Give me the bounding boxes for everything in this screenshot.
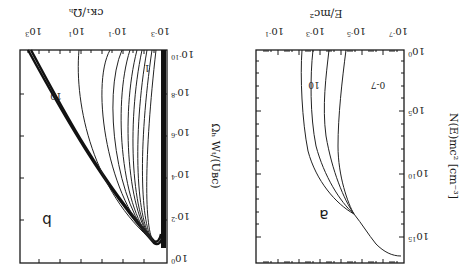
svg-text:10-3: 10-3 bbox=[151, 26, 170, 38]
svg-text:10-1: 10-1 bbox=[265, 26, 284, 38]
panel-a-x-tick-labels: 10-7 10-5 10-3 10-1 bbox=[265, 26, 408, 38]
panel-a-xlabel: E/mc² bbox=[310, 7, 343, 20]
svg-text:10-7: 10-7 bbox=[389, 26, 408, 38]
panel-a-annotation-0-7: 0-7 bbox=[370, 80, 385, 90]
panel-a-letter: a bbox=[319, 206, 328, 224]
svg-text:100: 100 bbox=[171, 253, 188, 265]
panel-b-xlabel: cκ₁/Ωₕ bbox=[68, 6, 103, 19]
panel-a-y-tick-labels: 100 105 1010 1015 bbox=[408, 46, 429, 243]
panel-a-annotation-10: 10 bbox=[308, 80, 320, 90]
svg-text:100: 100 bbox=[408, 46, 425, 58]
svg-text:10-5: 10-5 bbox=[347, 26, 366, 38]
svg-text:10-2: 10-2 bbox=[171, 211, 190, 223]
panel-b-band bbox=[161, 50, 166, 248]
svg-text:103: 103 bbox=[25, 26, 42, 38]
svg-text:10-1: 10-1 bbox=[108, 26, 127, 38]
panel-b-annotation-10: 10 bbox=[50, 91, 62, 101]
svg-text:10-10: 10-10 bbox=[171, 49, 194, 61]
panel-b: 10 1 b 10-3 10-1 101 103 cκ₁/Ωₕ 100 10-2… bbox=[20, 6, 222, 265]
panel-b-y-tick-labels: 100 10-2 10-4 10-6 10-8 10-10 bbox=[171, 49, 194, 265]
svg-text:101: 101 bbox=[68, 26, 85, 38]
panel-b-x-tick-labels: 10-3 10-1 101 103 bbox=[25, 26, 170, 38]
svg-text:105: 105 bbox=[408, 105, 425, 117]
panel-b-ylabel: Ωₕ Wₜ/(Uʙc) bbox=[209, 123, 222, 188]
panel-b-letter: b bbox=[42, 211, 52, 229]
panel-a-ylabel: N(E)mc² [cm⁻³] bbox=[447, 113, 460, 199]
svg-text:10-3: 10-3 bbox=[306, 26, 325, 38]
figure: 0-7 10 a 10-7 10-5 10-3 10-1 E/mc² 100 1… bbox=[0, 0, 474, 276]
svg-text:1015: 1015 bbox=[408, 231, 429, 243]
panel-b-annotation-1: 1 bbox=[144, 63, 150, 73]
svg-text:1010: 1010 bbox=[408, 168, 429, 180]
svg-text:10-8: 10-8 bbox=[171, 87, 190, 99]
svg-text:10-4: 10-4 bbox=[171, 169, 190, 181]
svg-text:10-6: 10-6 bbox=[171, 127, 190, 139]
panel-a: 0-7 10 a 10-7 10-5 10-3 10-1 E/mc² 100 1… bbox=[256, 7, 460, 263]
